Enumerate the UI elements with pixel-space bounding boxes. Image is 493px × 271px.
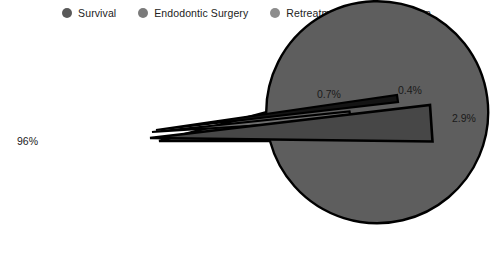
pie-chart-figure: Survival Endodontic Surgery Retreatment … <box>0 0 493 271</box>
value-label-survival: 96% <box>17 136 38 147</box>
value-label-endodontic-surgery: 0.7% <box>317 89 341 100</box>
value-label-retreatment: 0.4% <box>398 85 422 96</box>
value-label-extraction: 2.9% <box>452 113 476 124</box>
pie-slice-survival[interactable] <box>159 1 488 223</box>
pie-svg <box>0 0 493 271</box>
